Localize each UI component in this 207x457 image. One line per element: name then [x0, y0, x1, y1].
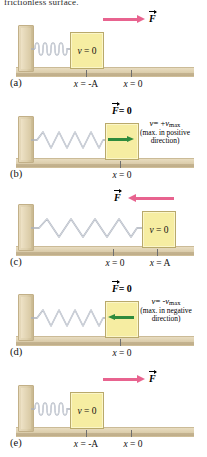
- force-label-e-text: F: [149, 373, 156, 384]
- panel-letter-b: (b): [10, 168, 22, 179]
- wall-inner-a: [21, 28, 31, 69]
- pos-b-0-eq: = 0: [119, 170, 131, 180]
- force-arrow-e: [103, 375, 145, 383]
- block-c: v = 0: [142, 211, 176, 248]
- floor-shadow-c: [16, 252, 194, 255]
- pos-label-b-zero: x = 0: [112, 170, 131, 180]
- spring-e-compressed: [31, 397, 71, 421]
- pos-label-e-zero: x = 0: [123, 439, 142, 449]
- pos-c-0-eq: = 0: [112, 258, 124, 268]
- wall-inner-e: [21, 388, 31, 429]
- pos-e-1-eq: = 0: [130, 439, 142, 449]
- panel-letter-a: (a): [10, 77, 22, 88]
- block-e-vel-eq: = 0: [84, 405, 96, 415]
- force-b-zero: = 0: [119, 105, 132, 116]
- spring-c-stretched: [31, 216, 143, 240]
- floor-shadow-a: [16, 73, 194, 76]
- force-label-d-text: F: [112, 283, 119, 294]
- pos-d-0-eq: = 0: [119, 348, 131, 358]
- floor-shadow-b: [16, 164, 194, 167]
- floor-shadow-e: [16, 433, 194, 436]
- floor-shadow-d: [16, 342, 194, 345]
- force-label-d: F= 0: [112, 281, 132, 294]
- cut-caption-text: frictionless surface.: [4, 0, 79, 5]
- vel-d-eq: = -: [155, 296, 165, 306]
- pos-d-0-var: x: [112, 348, 116, 358]
- spring-d-natural: [31, 306, 107, 330]
- tick-a-zero: [131, 70, 132, 77]
- pos-e-0-var: x: [74, 439, 78, 449]
- tick-b-zero: [120, 161, 121, 168]
- block-e-velocity-label: v = 0: [71, 405, 103, 415]
- vel-d-sub: max: [169, 299, 180, 306]
- force-label-a: F: [149, 11, 156, 24]
- velocity-text-d: v= -vmax (max. in negative direction): [126, 297, 206, 323]
- block-a: v = 0: [70, 32, 104, 69]
- force-label-b-text: F: [112, 105, 119, 116]
- tick-e-zero: [131, 430, 132, 437]
- wall-inner-c: [21, 207, 31, 248]
- pos-label-c-zero: x = 0: [105, 258, 124, 268]
- pos-label-a-negA: x = -A: [74, 79, 98, 89]
- force-label-c: F: [114, 190, 121, 203]
- block-c-vel-var: v: [149, 224, 153, 234]
- panel-a: v = 0 F x = -A x = 0 (a): [0, 10, 207, 95]
- force-arrow-a: [103, 15, 145, 23]
- panel-d: F= 0 v= -vmax (max. in negative directio…: [0, 278, 207, 366]
- pos-c-1-eq: = A: [156, 258, 170, 268]
- pos-e-0-eq: = -A: [80, 439, 98, 449]
- pos-label-c-A: x = A: [150, 258, 171, 268]
- force-label-c-text: F: [114, 192, 121, 203]
- block-c-vel-eq: = 0: [156, 224, 168, 234]
- pos-b-0-var: x: [112, 170, 116, 180]
- panel-c: v = 0 F x = 0 x = A (c): [0, 190, 207, 275]
- pos-a-1-eq: = 0: [130, 79, 142, 89]
- force-label-a-text: F: [149, 13, 156, 24]
- block-e: v = 0: [70, 392, 104, 429]
- tick-c-zero: [113, 249, 114, 256]
- vel-b-eq: = +: [153, 118, 165, 128]
- tick-c-A: [157, 249, 158, 256]
- force-d-zero: = 0: [119, 283, 132, 294]
- vel-b-sub: max: [169, 121, 180, 128]
- pos-label-e-negA: x = -A: [74, 439, 98, 449]
- wall-inner-d: [21, 297, 31, 338]
- panel-letter-c: (c): [10, 256, 22, 267]
- pos-a-0-eq: = -A: [80, 79, 98, 89]
- panel-letter-e: (e): [10, 437, 22, 448]
- pos-label-a-zero: x = 0: [123, 79, 142, 89]
- force-label-e: F: [149, 371, 156, 384]
- tick-a-negA: [86, 70, 87, 77]
- block-a-velocity-label: v = 0: [71, 45, 103, 55]
- velocity-text-b: v= +vmax (max. in positive direction): [126, 119, 204, 145]
- pos-c-0-var: x: [105, 258, 109, 268]
- wall-inner-b: [21, 119, 31, 160]
- block-e-vel-var: v: [77, 405, 81, 415]
- block-a-vel-eq: = 0: [84, 45, 96, 55]
- block-c-velocity-label: v = 0: [143, 224, 175, 234]
- pos-c-1-var: x: [150, 258, 154, 268]
- panel-e: v = 0 F x = -A x = 0 (e): [0, 370, 207, 457]
- pos-a-0-var: x: [74, 79, 78, 89]
- force-label-b: F= 0: [112, 103, 132, 116]
- pos-a-1-var: x: [123, 79, 127, 89]
- spring-a-compressed: [31, 37, 71, 61]
- panel-letter-d: (d): [10, 346, 22, 357]
- pos-e-1-var: x: [123, 439, 127, 449]
- force-arrow-c: [128, 194, 174, 202]
- pos-label-d-zero: x = 0: [112, 348, 131, 358]
- spring-block-oscillation-figure: frictionless surface. v = 0 F: [0, 0, 207, 457]
- tick-d-zero: [120, 339, 121, 346]
- block-a-vel-var: v: [77, 45, 81, 55]
- panel-b: F= 0 v= +vmax (max. in positive directio…: [0, 100, 207, 188]
- tick-e-negA: [86, 430, 87, 437]
- velocity-note-d-2: direction): [126, 315, 206, 323]
- velocity-note-b-2: direction): [126, 137, 204, 145]
- spring-b-natural: [31, 128, 107, 152]
